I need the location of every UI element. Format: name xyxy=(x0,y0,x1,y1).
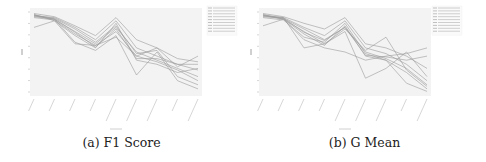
x-tick-label xyxy=(356,99,366,121)
x-tick-label xyxy=(147,99,157,121)
x-tick-label xyxy=(319,99,324,111)
caption-g-mean: (b) G Mean xyxy=(243,135,486,150)
x-tick-label xyxy=(258,99,263,111)
x-tick-label xyxy=(90,99,95,111)
x-tick-label xyxy=(401,99,406,111)
x-tick-label xyxy=(417,99,427,121)
x-tick-label xyxy=(127,99,137,121)
subfigure-b-g-mean: (b) G Mean xyxy=(243,0,486,162)
x-tick-label xyxy=(70,99,75,111)
x-tick-label xyxy=(278,99,283,111)
legend xyxy=(207,6,237,35)
x-tick-label xyxy=(172,99,177,111)
legend xyxy=(432,6,462,35)
x-tick-label xyxy=(299,99,304,111)
subfigure-a-f1-score: (a) F1 Score xyxy=(0,0,243,162)
x-tick-label xyxy=(335,99,345,121)
f1-score-line-chart xyxy=(0,0,243,135)
x-tick-label xyxy=(188,99,198,121)
g-mean-line-chart xyxy=(243,0,486,135)
caption-f1-score: (a) F1 Score xyxy=(0,135,243,150)
x-tick-label xyxy=(106,99,116,121)
x-tick-label xyxy=(376,99,386,121)
x-tick-label xyxy=(49,99,54,111)
x-tick-label xyxy=(29,99,34,111)
